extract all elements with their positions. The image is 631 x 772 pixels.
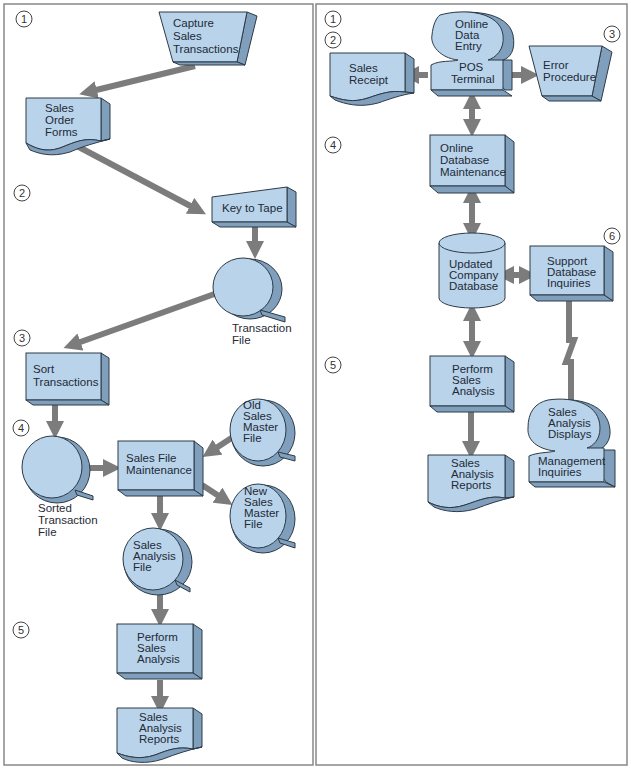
step-marker-4: 4 xyxy=(13,420,29,436)
step-marker-1: 1 xyxy=(16,11,32,27)
step-marker-r4: 4 xyxy=(325,137,341,153)
flowchart-canvas: 1 2 3 4 5 CaptureSalesTransactions Sales… xyxy=(0,0,631,772)
step-marker-5: 5 xyxy=(13,622,29,638)
node-transaction-file: TransactionFile xyxy=(213,258,292,346)
node-updated-company-database: UpdatedCompanyDatabase xyxy=(439,233,505,308)
step-marker-r6: 6 xyxy=(604,228,620,244)
svg-text:4: 4 xyxy=(18,422,24,434)
node-new-sales-master-file: NewSalesMasterFile xyxy=(230,484,295,553)
step-marker-3: 3 xyxy=(14,330,30,346)
arrow-old-to-maint xyxy=(210,437,233,452)
svg-text:2: 2 xyxy=(330,34,336,46)
arrow-forms-to-key xyxy=(75,145,198,210)
node-key-to-tape: Key to Tape xyxy=(212,187,296,227)
svg-text:6: 6 xyxy=(609,230,615,242)
node-sales-receipt: SalesReceipt xyxy=(330,53,414,105)
svg-text:3: 3 xyxy=(609,28,615,40)
node-sales-file-maintenance: Sales FileMaintenance xyxy=(118,441,203,496)
arrow-maint-to-new xyxy=(202,485,225,500)
node-sales-order-forms: SalesOrderForms xyxy=(26,98,110,155)
svg-text:5: 5 xyxy=(330,359,336,371)
svg-text:Key to Tape: Key to Tape xyxy=(222,202,283,214)
svg-text:5: 5 xyxy=(18,624,24,636)
node-sort-transactions: SortTransactions xyxy=(26,353,109,405)
node-sales-analysis-reports-right: SalesAnalysisReports xyxy=(428,455,514,512)
node-sales-analysis-file: SalesAnalysisFile xyxy=(123,528,192,595)
svg-text:1: 1 xyxy=(21,13,27,25)
step-marker-r1: 1 xyxy=(325,11,341,27)
arrow-capture-to-forms xyxy=(88,66,195,92)
arrow-file-to-sort xyxy=(72,292,220,345)
node-pos-terminal: OnlineDataEntryPOSTerminal xyxy=(431,12,514,96)
svg-text:1: 1 xyxy=(330,13,336,25)
step-marker-r2: 2 xyxy=(325,32,341,48)
node-perform-sales-analysis-right: PerformSalesAnalysis xyxy=(430,356,514,412)
svg-text:2: 2 xyxy=(19,187,25,199)
node-support-database-inquiries: SupportDatabaseInquiries xyxy=(530,246,613,301)
step-marker-2: 2 xyxy=(14,185,30,201)
node-capture-sales-transactions: CaptureSalesTransactions xyxy=(159,12,257,65)
svg-text:SalesOrderForms: SalesOrderForms xyxy=(45,102,78,138)
svg-text:SortedTransactionFile: SortedTransactionFile xyxy=(38,502,98,538)
step-marker-r3: 3 xyxy=(604,26,620,42)
node-perform-sales-analysis-left: PerformSalesAnalysis xyxy=(117,624,202,679)
svg-text:TransactionFile: TransactionFile xyxy=(232,322,292,346)
node-sorted-transaction-file: SortedTransactionFile xyxy=(22,436,98,538)
node-sales-analysis-reports-left: SalesAnalysisReports xyxy=(117,708,202,762)
node-error-procedure: ErrorProcedure xyxy=(529,46,612,101)
node-sales-analysis-displays: SalesAnalysisDisplaysManagementInquiries xyxy=(528,399,615,487)
svg-text:3: 3 xyxy=(19,332,25,344)
node-old-sales-master-file: OldSalesMasterFile xyxy=(230,399,295,466)
step-marker-r5: 5 xyxy=(325,357,341,373)
svg-text:UpdatedCompanyDatabase: UpdatedCompanyDatabase xyxy=(449,258,498,292)
svg-text:4: 4 xyxy=(330,139,336,151)
comm-link-support-to-displays xyxy=(566,299,574,403)
node-online-database-maintenance: OnlineDatabaseMaintenance xyxy=(430,135,514,193)
